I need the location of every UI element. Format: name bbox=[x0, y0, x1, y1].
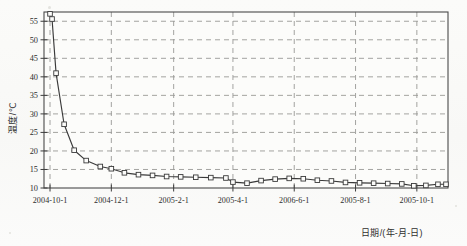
x-tick-label: 2005-10-1 bbox=[400, 196, 435, 205]
temperature-date-chart: 10152025303540455055 2004-10-12004-12-12… bbox=[0, 0, 467, 246]
data-point-marker bbox=[287, 176, 292, 181]
data-point-marker bbox=[329, 179, 334, 184]
data-point-marker bbox=[54, 71, 59, 76]
data-point-marker bbox=[48, 12, 53, 17]
scan-speck bbox=[48, 6, 51, 9]
scan-speck bbox=[455, 205, 457, 207]
data-point-marker bbox=[343, 180, 348, 185]
x-tick-label: 2004-12-1 bbox=[94, 196, 129, 205]
scan-speck bbox=[9, 232, 11, 234]
y-tick-label: 50 bbox=[30, 36, 38, 45]
chart-svg: 10152025303540455055 2004-10-12004-12-12… bbox=[0, 0, 467, 246]
x-axis-title: 日期/(年-月-日) bbox=[361, 227, 423, 238]
x-tick-label: 2005-4-1 bbox=[218, 196, 248, 205]
data-point-marker bbox=[412, 183, 417, 188]
data-point-marker bbox=[193, 175, 198, 180]
y-tick-label: 45 bbox=[30, 54, 38, 63]
data-point-marker bbox=[224, 176, 229, 181]
data-point-marker bbox=[84, 158, 89, 163]
data-point-marker bbox=[273, 177, 278, 182]
x-tick-label: 2006-6-1 bbox=[279, 196, 309, 205]
data-point-marker bbox=[424, 183, 429, 188]
data-point-marker bbox=[178, 175, 183, 180]
data-point-marker bbox=[150, 173, 155, 178]
x-tick-label: 2005-8-1 bbox=[340, 196, 370, 205]
plot-area-background bbox=[44, 12, 448, 188]
y-tick-label: 30 bbox=[30, 110, 38, 119]
y-tick-label: 35 bbox=[30, 91, 38, 100]
data-point-marker bbox=[245, 181, 250, 186]
data-point-marker bbox=[72, 148, 77, 153]
data-point-marker bbox=[109, 166, 114, 171]
y-tick-label: 40 bbox=[30, 73, 38, 82]
x-tick-label: 2005-2-1 bbox=[158, 196, 188, 205]
data-point-marker bbox=[444, 182, 449, 187]
data-point-marker bbox=[385, 181, 390, 186]
data-point-marker bbox=[122, 171, 127, 176]
data-point-marker bbox=[259, 178, 264, 183]
y-tick-label: 10 bbox=[30, 184, 38, 193]
x-tick-label: 2004-10-1 bbox=[33, 196, 68, 205]
data-point-marker bbox=[315, 178, 320, 183]
data-point-marker bbox=[399, 182, 404, 187]
data-point-marker bbox=[209, 175, 214, 180]
y-tick-label: 55 bbox=[30, 17, 38, 26]
data-point-marker bbox=[301, 176, 306, 181]
y-tick-label: 20 bbox=[30, 147, 38, 156]
data-point-marker bbox=[62, 122, 67, 127]
data-point-marker bbox=[164, 174, 169, 179]
data-point-marker bbox=[231, 180, 236, 185]
y-tick-label: 25 bbox=[30, 128, 38, 137]
data-point-marker bbox=[98, 164, 103, 169]
data-point-marker bbox=[136, 172, 141, 177]
data-point-marker bbox=[357, 181, 362, 186]
y-axis-title: 温度/℃ bbox=[7, 102, 18, 133]
data-point-marker bbox=[50, 17, 55, 22]
data-point-marker bbox=[371, 181, 376, 186]
data-point-marker bbox=[436, 182, 441, 187]
y-tick-label: 15 bbox=[30, 165, 38, 174]
